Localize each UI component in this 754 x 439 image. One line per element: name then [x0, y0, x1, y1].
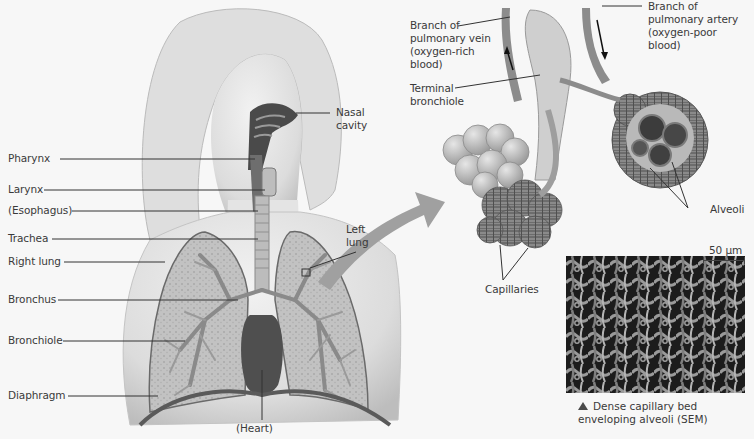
label-esophagus: (Esophagus) [8, 204, 72, 217]
label-trachea: Trachea [8, 232, 48, 245]
label-capillaries: Capillaries [485, 283, 539, 296]
respiratory-diagram: Nasal cavity Pharynx Larynx (Esophagus) … [0, 0, 754, 439]
label-left-lung: Left lung [346, 223, 369, 249]
label-bronchiole: Bronchiole [8, 334, 63, 347]
sem-micrograph [566, 256, 745, 393]
triangle-marker-icon [578, 402, 588, 410]
label-terminal-bronchiole: Terminal bronchiole [410, 82, 464, 108]
label-right-lung: Right lung [8, 255, 61, 268]
label-pulmonary-artery: Branch of pulmonary artery (oxygen-poor … [648, 0, 738, 52]
label-nasal-cavity: Nasal cavity [336, 106, 367, 132]
label-bronchus: Bronchus [8, 293, 56, 306]
trachea-shape [255, 196, 269, 291]
label-pharynx: Pharynx [8, 152, 50, 165]
label-scale-bar: 50 µm [709, 244, 742, 257]
label-pulmonary-vein: Branch of pulmonary vein (oxygen-rich bl… [410, 19, 491, 71]
label-alveoli: Alveoli [710, 203, 744, 216]
scale-bar [703, 260, 745, 261]
caption-text: Dense capillary bed enveloping alveoli (… [578, 400, 708, 425]
label-diaphragm: Diaphragm [8, 389, 66, 402]
label-heart: (Heart) [236, 422, 273, 435]
label-larynx: Larynx [8, 183, 43, 196]
micrograph-caption: Dense capillary bed enveloping alveoli (… [578, 400, 708, 426]
